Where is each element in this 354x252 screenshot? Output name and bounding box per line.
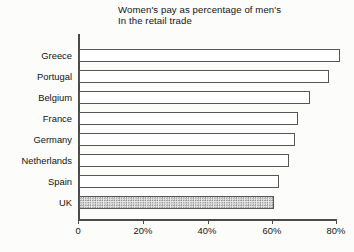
x-tick-20 bbox=[143, 219, 144, 224]
bar-germany bbox=[79, 133, 295, 146]
category-label-spain: Spain bbox=[0, 177, 72, 187]
chart-title-line-2: In the retail trade bbox=[118, 15, 354, 26]
chart-title: Women's pay as percentage of men's In th… bbox=[118, 4, 354, 26]
x-tick-label-40: 40% bbox=[185, 226, 229, 236]
x-tick-label-80: 80% bbox=[314, 226, 354, 236]
category-label-portugal: Portugal bbox=[0, 72, 72, 82]
plot-area bbox=[78, 34, 337, 221]
bar-spain bbox=[79, 175, 279, 188]
category-label-germany: Germany bbox=[0, 135, 72, 145]
x-tick-label-0: 0 bbox=[56, 226, 100, 236]
category-label-netherlands: Netherlands bbox=[0, 156, 72, 166]
bar-portugal bbox=[79, 70, 329, 83]
bar-netherlands bbox=[79, 154, 289, 167]
x-tick-40 bbox=[208, 219, 209, 224]
category-label-uk: UK bbox=[0, 198, 72, 208]
category-label-belgium: Belgium bbox=[0, 93, 72, 103]
x-tick-label-20: 20% bbox=[121, 226, 165, 236]
x-tick-label-60: 60% bbox=[250, 226, 294, 236]
bar-uk bbox=[79, 196, 274, 209]
category-label-france: France bbox=[0, 114, 72, 124]
chart-title-line-1: Women's pay as percentage of men's bbox=[118, 4, 281, 15]
bar-france bbox=[79, 112, 298, 125]
x-tick-60 bbox=[272, 219, 273, 224]
x-tick-0 bbox=[78, 219, 79, 224]
bar-greece bbox=[79, 49, 340, 62]
bar-belgium bbox=[79, 91, 310, 104]
y-axis-line bbox=[78, 34, 80, 221]
category-label-greece: Greece bbox=[0, 51, 72, 61]
bar-chart: Women's pay as percentage of men's In th… bbox=[0, 0, 354, 252]
x-tick-80 bbox=[336, 219, 337, 224]
